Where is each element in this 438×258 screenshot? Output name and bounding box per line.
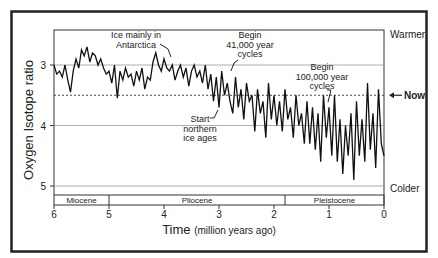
y-tick-label: 4 — [40, 121, 46, 132]
now-label: Now — [404, 90, 425, 101]
x-tick-label: 0 — [381, 209, 387, 220]
x-tick-label: 6 — [51, 209, 57, 220]
warmer-label: Warmer — [390, 29, 426, 40]
epoch-label: Pleistocene — [314, 196, 356, 205]
annotation-text: Ice mainly inAntarctica — [111, 30, 161, 50]
x-tick-label: 4 — [161, 209, 167, 220]
x-tick-label: 5 — [106, 209, 112, 220]
y-tick-label: 5 — [40, 181, 46, 192]
x-axis-label: Time (million years ago) — [162, 222, 276, 237]
colder-label: Colder — [390, 183, 420, 194]
y-axis-label: Oxygen Isotope ratio — [21, 60, 36, 180]
epoch-label: Pliocene — [182, 196, 213, 205]
x-tick-label: 1 — [326, 209, 332, 220]
epoch-label: Miocene — [66, 196, 97, 205]
x-tick-label: 2 — [271, 209, 277, 220]
oxygen-isotope-chart: 345NowMiocenePliocenePleistocene6543210I… — [0, 0, 438, 258]
x-tick-label: 3 — [216, 209, 222, 220]
y-tick-label: 3 — [40, 60, 46, 71]
